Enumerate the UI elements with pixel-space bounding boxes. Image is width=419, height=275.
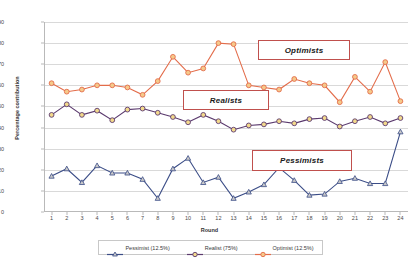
data-point <box>353 74 358 79</box>
x-axis-tick-label: 23 <box>377 215 393 221</box>
data-point <box>246 123 251 128</box>
x-axis-tick-label: 11 <box>195 215 211 221</box>
x-axis-tick-mark <box>157 212 158 215</box>
x-axis-tick-label: 19 <box>317 215 333 221</box>
x-axis-tick-label: 4 <box>89 215 105 221</box>
chart-container: 0102030405060708090 12345678910111213141… <box>0 0 419 275</box>
data-point <box>246 83 251 88</box>
data-series-layer <box>44 22 408 212</box>
data-point <box>398 116 403 121</box>
data-point <box>216 41 221 46</box>
legend-item[interactable]: Optimist (12.5%) <box>255 244 314 251</box>
data-point <box>322 116 327 121</box>
y-axis-tick-label: 80 <box>0 40 4 46</box>
data-point <box>201 66 206 71</box>
data-point <box>368 89 373 94</box>
data-point <box>383 121 388 126</box>
x-axis-tick-label: 6 <box>119 215 135 221</box>
x-axis-tick-mark <box>294 212 295 215</box>
data-point <box>155 79 160 84</box>
data-point <box>277 119 282 124</box>
x-axis-tick-mark <box>339 212 340 215</box>
data-point <box>292 77 297 82</box>
x-axis-tick-label: 9 <box>165 215 181 221</box>
y-axis-title: Percentage contribution <box>14 76 20 139</box>
x-axis-tick-mark <box>324 212 325 215</box>
legend-item[interactable]: Realist (75%) <box>187 244 238 251</box>
data-point <box>398 99 403 104</box>
y-axis-tick-label: 20 <box>0 167 4 173</box>
data-point <box>322 83 327 88</box>
x-axis-tick-mark <box>385 212 386 215</box>
data-point <box>125 107 130 112</box>
x-axis-tick-label: 16 <box>271 215 287 221</box>
data-point <box>140 92 145 97</box>
x-axis-tick-label: 7 <box>135 215 151 221</box>
data-point <box>201 112 206 117</box>
legend-label: Optimist (12.5%) <box>273 245 314 251</box>
data-point <box>231 42 236 47</box>
data-point <box>353 119 358 124</box>
x-axis-tick-label: 24 <box>392 215 408 221</box>
x-axis-title: Round <box>0 227 419 233</box>
x-axis-tick-mark <box>370 212 371 215</box>
x-axis-tick-mark <box>172 212 173 215</box>
y-axis-tick-label: 10 <box>0 188 4 194</box>
data-point <box>246 189 251 194</box>
chart-legend: Pessimist (12.5%)Realist (75%)Optimist (… <box>98 240 323 255</box>
x-axis-tick-mark <box>112 212 113 215</box>
data-point <box>216 119 221 124</box>
x-axis-tick-mark <box>97 212 98 215</box>
data-point <box>216 175 221 180</box>
y-axis-tick-label: 70 <box>0 61 4 67</box>
y-axis-tick-label: 50 <box>0 103 4 109</box>
x-axis-tick-label: 5 <box>104 215 120 221</box>
data-point <box>307 81 312 86</box>
data-point <box>231 127 236 132</box>
x-axis-tick-mark <box>309 212 310 215</box>
x-axis-tick-mark <box>188 212 189 215</box>
annotation-realists: Realists <box>183 90 269 110</box>
x-axis-tick-label: 20 <box>332 215 348 221</box>
data-point <box>110 118 115 123</box>
data-point <box>64 166 69 171</box>
x-axis-tick-label: 12 <box>210 215 226 221</box>
data-point <box>171 54 176 59</box>
data-point <box>398 129 403 134</box>
data-point <box>64 89 69 94</box>
x-axis-tick-mark <box>248 212 249 215</box>
x-axis-tick-mark <box>233 212 234 215</box>
data-point <box>262 122 267 127</box>
x-axis-tick-mark <box>127 212 128 215</box>
legend-item[interactable]: Pessimist (12.5%) <box>107 244 169 251</box>
data-point <box>95 83 100 88</box>
legend-marker-icon <box>255 244 271 251</box>
x-axis-tick-label: 2 <box>59 215 75 221</box>
data-point <box>95 108 100 113</box>
legend-marker-icon <box>187 244 203 251</box>
y-axis-tick-label: 90 <box>0 19 4 25</box>
data-point <box>352 176 357 181</box>
x-axis-tick-mark <box>142 212 143 215</box>
x-axis-tick-label: 22 <box>362 215 378 221</box>
x-axis-tick-mark <box>279 212 280 215</box>
data-point <box>337 124 342 129</box>
y-axis-tick-label: 60 <box>0 82 4 88</box>
x-axis-tick-label: 18 <box>301 215 317 221</box>
y-axis-tick-label: 30 <box>0 146 4 152</box>
data-point <box>80 112 85 117</box>
data-point <box>64 102 69 107</box>
data-point <box>383 60 388 65</box>
legend-label: Pessimist (12.5%) <box>125 245 169 251</box>
data-point <box>140 106 145 111</box>
x-axis-tick-mark <box>354 212 355 215</box>
legend-marker-icon <box>107 244 123 251</box>
x-axis-tick-label: 14 <box>241 215 257 221</box>
x-axis-tick-label: 21 <box>347 215 363 221</box>
data-point <box>49 174 54 179</box>
x-axis-tick-mark <box>203 212 204 215</box>
legend-label: Realist (75%) <box>205 245 238 251</box>
data-point <box>185 156 190 161</box>
x-axis-tick-label: 17 <box>286 215 302 221</box>
x-axis-tick-mark <box>218 212 219 215</box>
